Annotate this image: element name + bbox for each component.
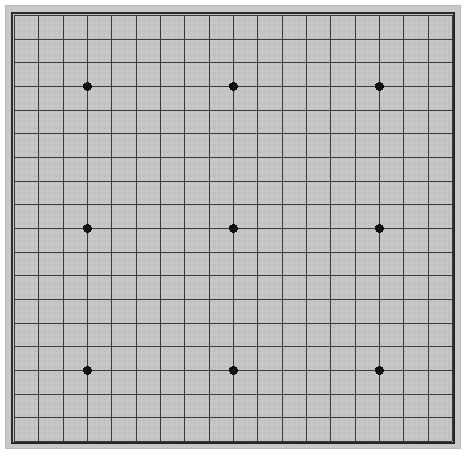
board-intersection[interactable] [270,430,294,442]
board-intersection[interactable] [148,264,172,288]
board-intersection[interactable] [416,146,440,170]
board-intersection[interactable] [343,99,367,123]
board-intersection[interactable] [318,122,342,146]
board-intersection[interactable] [294,383,318,407]
board-intersection[interactable] [148,14,172,27]
board-intersection[interactable] [26,51,50,75]
board-intersection[interactable] [245,406,269,430]
board-intersection[interactable] [26,264,50,288]
board-intersection[interactable] [270,312,294,336]
board-intersection[interactable] [51,28,75,52]
board-intersection[interactable] [343,430,367,442]
board-intersection[interactable] [172,193,196,217]
board-intersection[interactable] [51,75,75,99]
board-intersection[interactable] [270,75,294,99]
board-intersection[interactable] [318,75,342,99]
board-intersection[interactable] [26,288,50,312]
board-intersection[interactable] [294,335,318,359]
board-intersection[interactable] [367,359,391,383]
board-intersection[interactable] [343,14,367,27]
board-intersection[interactable] [124,217,148,241]
board-intersection[interactable] [13,241,27,265]
board-intersection[interactable] [197,406,221,430]
board-intersection[interactable] [391,359,415,383]
board-intersection[interactable] [294,288,318,312]
board-intersection[interactable] [343,28,367,52]
board-intersection[interactable] [343,75,367,99]
board-intersection[interactable] [270,51,294,75]
board-intersection[interactable] [99,217,123,241]
board-intersection[interactable] [172,75,196,99]
board-intersection[interactable] [221,146,245,170]
board-intersection[interactable] [51,264,75,288]
board-intersection[interactable] [343,122,367,146]
board-intersection[interactable] [26,406,50,430]
board-intersection[interactable] [51,406,75,430]
board-intersection[interactable] [318,406,342,430]
board-intersection[interactable] [172,28,196,52]
board-intersection[interactable] [391,170,415,194]
board-intersection[interactable] [440,359,453,383]
board-intersection[interactable] [75,359,99,383]
board-intersection[interactable] [172,170,196,194]
board-intersection[interactable] [51,217,75,241]
board-intersection[interactable] [318,312,342,336]
board-intersection[interactable] [197,288,221,312]
board-intersection[interactable] [13,14,27,27]
board-intersection[interactable] [99,288,123,312]
board-intersection[interactable] [270,28,294,52]
board-intersection[interactable] [416,359,440,383]
board-intersection[interactable] [13,122,27,146]
board-intersection[interactable] [416,430,440,442]
board-intersection[interactable] [172,217,196,241]
board-intersection[interactable] [172,99,196,123]
board-intersection[interactable] [391,193,415,217]
board-intersection[interactable] [245,217,269,241]
board-intersection[interactable] [245,122,269,146]
board-intersection[interactable] [197,75,221,99]
board-intersection[interactable] [440,99,453,123]
board-intersection[interactable] [75,406,99,430]
board-intersection[interactable] [416,170,440,194]
board-intersection[interactable] [124,383,148,407]
board-intersection[interactable] [148,241,172,265]
board-intersection[interactable] [221,14,245,27]
board-intersection[interactable] [26,430,50,442]
board-intersection[interactable] [75,383,99,407]
board-intersection[interactable] [221,122,245,146]
board-intersection[interactable] [197,122,221,146]
board-intersection[interactable] [294,75,318,99]
board-intersection[interactable] [197,241,221,265]
board-intersection[interactable] [416,28,440,52]
board-intersection[interactable] [440,335,453,359]
board-intersection[interactable] [245,51,269,75]
board-intersection[interactable] [245,359,269,383]
board-intersection[interactable] [75,430,99,442]
board-intersection[interactable] [270,14,294,27]
board-intersection[interactable] [294,406,318,430]
board-intersection[interactable] [197,359,221,383]
board-intersection[interactable] [99,264,123,288]
board-intersection[interactable] [367,75,391,99]
board-intersection[interactable] [51,51,75,75]
board-intersection[interactable] [172,312,196,336]
board-intersection[interactable] [13,264,27,288]
board-intersection[interactable] [367,264,391,288]
board-intersection[interactable] [245,193,269,217]
board-intersection[interactable] [51,193,75,217]
board-intersection[interactable] [440,28,453,52]
board-intersection[interactable] [221,99,245,123]
board-intersection[interactable] [197,430,221,442]
board-intersection[interactable] [124,359,148,383]
board-intersection[interactable] [26,241,50,265]
board-intersection[interactable] [245,312,269,336]
board-intersection[interactable] [318,430,342,442]
board-intersection[interactable] [13,28,27,52]
board-intersection[interactable] [148,51,172,75]
board-intersection[interactable] [148,122,172,146]
board-intersection[interactable] [416,122,440,146]
board-intersection[interactable] [197,193,221,217]
board-intersection[interactable] [13,312,27,336]
board-intersection[interactable] [124,406,148,430]
board-intersection[interactable] [367,170,391,194]
